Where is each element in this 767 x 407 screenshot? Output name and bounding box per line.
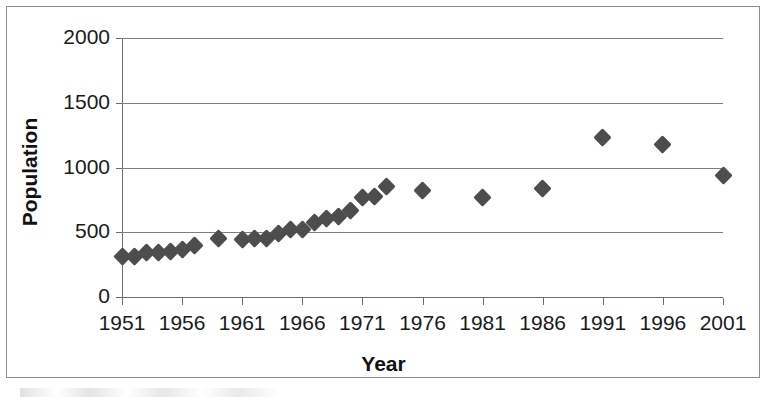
y-axis-tick-labels: 0500100015002000: [0, 0, 110, 407]
x-tick-label: 1986: [511, 311, 575, 335]
y-tick-label: 1000: [63, 155, 110, 179]
y-tick-mark: [116, 103, 122, 104]
y-tick-label: 500: [75, 219, 110, 243]
x-tick-mark: [182, 298, 183, 305]
x-tick-label: 2001: [691, 311, 755, 335]
gridline-y: [122, 232, 723, 233]
x-tick-label: 1961: [210, 311, 274, 335]
x-tick-label: 1981: [451, 311, 515, 335]
x-tick-mark: [723, 298, 724, 305]
x-tick-mark: [603, 298, 604, 305]
x-tick-label: 1996: [631, 311, 695, 335]
y-tick-label: 1500: [63, 90, 110, 114]
data-point-marker: [594, 129, 612, 147]
plot-area: [122, 38, 723, 297]
x-tick-mark: [302, 298, 303, 305]
y-tick-mark: [116, 168, 122, 169]
x-tick-label: 1976: [391, 311, 455, 335]
x-tick-label: 1966: [270, 311, 334, 335]
x-tick-mark: [483, 298, 484, 305]
data-point-marker: [413, 182, 431, 200]
scan-artifact: [20, 388, 280, 397]
x-tick-mark: [423, 298, 424, 305]
gridline-y: [122, 168, 723, 169]
x-tick-mark: [362, 298, 363, 305]
x-tick-mark: [543, 298, 544, 305]
x-tick-label: 1956: [150, 311, 214, 335]
y-tick-label: 0: [98, 284, 110, 308]
x-tick-mark: [122, 298, 123, 305]
gridline-y: [122, 103, 723, 104]
y-tick-mark: [116, 232, 122, 233]
x-axis-title: Year: [0, 352, 767, 376]
x-tick-mark: [663, 298, 664, 305]
gridline-y: [122, 38, 723, 39]
data-point-marker: [473, 188, 491, 206]
chart-figure: 0500100015002000 Population Year 1951195…: [0, 0, 767, 407]
data-point-marker: [654, 135, 672, 153]
y-axis-title: Population: [18, 82, 42, 262]
x-tick-label: 1971: [330, 311, 394, 335]
data-point-marker: [533, 179, 551, 197]
x-tick-label: 1991: [571, 311, 635, 335]
y-tick-mark: [116, 38, 122, 39]
x-tick-mark: [242, 298, 243, 305]
y-tick-label: 2000: [63, 25, 110, 49]
x-tick-label: 1951: [90, 311, 154, 335]
